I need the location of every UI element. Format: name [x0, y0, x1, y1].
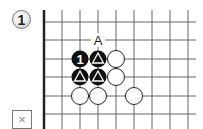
black-stones: 1 — [72, 51, 107, 86]
move-number-label: 1 — [76, 52, 83, 67]
white-stone — [90, 88, 107, 105]
go-board[interactable]: A 1 — [0, 0, 203, 129]
white-stone — [108, 51, 125, 68]
white-stone — [108, 69, 125, 86]
point-label-a: A — [94, 33, 103, 48]
white-stone — [126, 88, 143, 105]
white-stone — [72, 88, 89, 105]
